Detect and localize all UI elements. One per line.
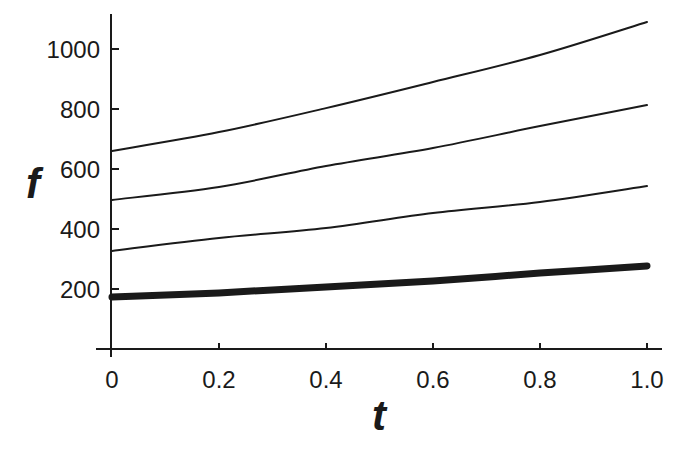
x-tick-label: 0.6 — [416, 366, 449, 393]
series-line-4 — [112, 266, 647, 297]
series-line-1 — [112, 22, 647, 151]
y-tick-label: 200 — [60, 276, 100, 303]
plot-series — [112, 22, 647, 297]
x-tick-label: 0 — [105, 366, 118, 393]
x-tick-label: 1.0 — [630, 366, 663, 393]
y-ticks: 2004006008001000 — [47, 36, 119, 303]
y-tick-label: 400 — [60, 216, 100, 243]
y-tick-label: 600 — [60, 156, 100, 183]
y-tick-label: 1000 — [47, 36, 100, 63]
y-axis: 2004006008001000 — [47, 14, 119, 357]
x-axis-title: t — [372, 392, 388, 439]
y-tick-label: 800 — [60, 96, 100, 123]
y-axis-title: f — [26, 160, 44, 207]
series-line-3 — [112, 186, 647, 251]
x-tick-label: 0.8 — [523, 366, 556, 393]
line-chart: 2004006008001000 00.20.40.60.81.0 f t — [0, 0, 685, 460]
x-tick-label: 0.2 — [202, 366, 235, 393]
x-axis: 00.20.40.60.81.0 — [96, 343, 664, 393]
series-line-2 — [112, 105, 647, 200]
x-ticks: 00.20.40.60.81.0 — [105, 343, 663, 393]
x-tick-label: 0.4 — [309, 366, 342, 393]
